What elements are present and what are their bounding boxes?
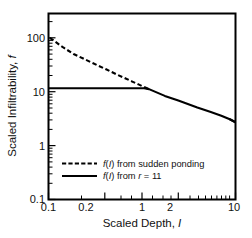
x-axis-title-prefix: Scaled Depth, [103, 217, 178, 229]
x-axis-title: Scaled Depth, I [103, 217, 182, 229]
xtick-label-1: 0.2 [78, 201, 93, 213]
xtick-label-4: 10 [228, 201, 240, 213]
legend-text-1: from sudden ponding [114, 159, 204, 169]
ytick-label-0.1: 0.1 [30, 193, 45, 205]
ytick-label-10: 10 [33, 86, 45, 98]
legend-text-2-post: = 11 [141, 171, 161, 181]
chart-figure: 0.1 0.2 1 2 10 100 10 1 0.1 Scaled Depth… [0, 0, 252, 238]
xtick-label-2: 1 [139, 201, 145, 213]
legend-text-2-pre: from [114, 171, 138, 181]
y-axis-title: Scaled Infiltrability, f [6, 53, 18, 156]
legend-label-r-11: f(I) from r = 11 [103, 171, 162, 181]
chart-svg: 0.1 0.2 1 2 10 100 10 1 0.1 Scaled Depth… [0, 0, 252, 238]
y-axis-title-symbol: f [6, 53, 18, 58]
ytick-label-1: 1 [39, 140, 45, 152]
x-axis-title-symbol: I [178, 217, 182, 229]
legend-label-sudden-ponding: f(I) from sudden ponding [103, 159, 204, 169]
xtick-label-3: 2 [167, 201, 173, 213]
ytick-label-100: 100 [27, 32, 45, 44]
y-axis-title-prefix: Scaled Infiltrability, [6, 58, 18, 156]
